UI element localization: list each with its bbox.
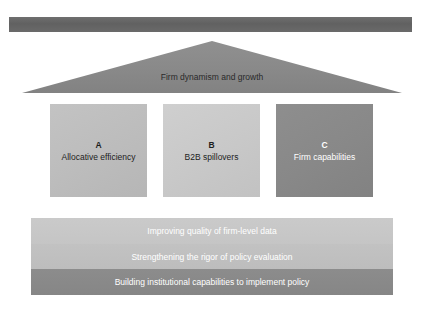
pillar-c-title: Firm capabilities (294, 151, 355, 163)
figure-canvas: Firm dynamism and growth A Allocative ef… (0, 0, 424, 323)
pillar-c-letter: C (321, 139, 327, 151)
roof-label: Firm dynamism and growth (0, 72, 424, 82)
foundation-row-data-quality: Improving quality of firm-level data (31, 218, 393, 244)
foundation-row-institutional-capabilities: Building institutional capabilities to i… (31, 269, 393, 295)
cropped-figure-title (0, 0, 424, 5)
roof-triangle (22, 41, 402, 94)
pillar-b: B B2B spillovers (163, 104, 260, 197)
pillar-b-letter: B (208, 139, 214, 151)
foundation-row-policy-evaluation: Strengthening the rigor of policy evalua… (31, 244, 393, 270)
pillar-a-letter: A (95, 139, 101, 151)
pillar-a-title: Allocative efficiency (61, 151, 135, 163)
top-bar-lintel (9, 17, 412, 32)
pillar-b-title: B2B spillovers (185, 151, 239, 163)
pillar-c: C Firm capabilities (276, 104, 373, 197)
pillar-a: A Allocative efficiency (50, 104, 147, 197)
foundation-block: Improving quality of firm-level data Str… (31, 218, 393, 295)
